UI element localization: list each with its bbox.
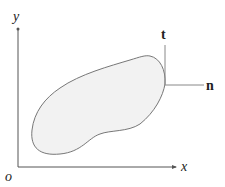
y-axis-arrow [17, 28, 20, 31]
tangent-label: t [161, 28, 166, 42]
origin-label: o [5, 170, 12, 184]
region-shape [32, 56, 165, 155]
y-axis-label: y [13, 10, 19, 24]
x-axis-arrow [172, 165, 177, 169]
normal-label: n [206, 79, 214, 93]
x-axis-label: x [181, 160, 187, 174]
diagram-canvas [0, 0, 225, 187]
